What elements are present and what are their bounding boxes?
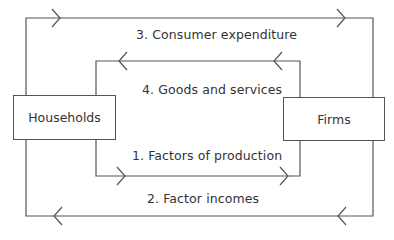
- flow-label-consumer-expenditure: 3. Consumer expenditure: [136, 27, 297, 42]
- households-label: Households: [28, 110, 101, 125]
- flow-label-factors-production: 1. Factors of production: [132, 148, 282, 163]
- households-node: Households: [13, 95, 116, 140]
- flow-label-factor-incomes: 2. Factor incomes: [147, 191, 259, 206]
- firms-node: Firms: [283, 97, 385, 141]
- firms-label: Firms: [317, 112, 350, 127]
- flow-label-goods-services: 4. Goods and services: [142, 82, 282, 97]
